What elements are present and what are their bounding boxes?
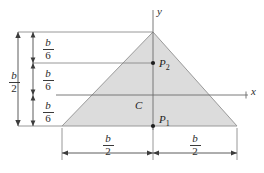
point-label-c-base: C — [135, 99, 142, 111]
dim-left-overall-label: b 2 — [4, 70, 24, 94]
point-marker-p1 — [151, 124, 155, 128]
dim-left-segment-3-numerator: b — [38, 100, 58, 111]
point-label-p1: P1 — [159, 113, 170, 128]
dim-left-segment-1-label: b 6 — [38, 37, 58, 61]
figure-canvas: y x b 2 b 6 b 6 b 6 b 2 b 2 P2 — [0, 0, 264, 173]
dim-bottom-left-numerator: b — [98, 133, 118, 144]
dim-bottom-left-arrow-end — [147, 151, 153, 156]
dim-bottom-left-denominator: 2 — [98, 146, 118, 157]
dim-bottom-left-label: b 2 — [98, 133, 118, 157]
dim-bottom-right-numerator: b — [185, 133, 205, 144]
dim-left-segment-2-label: b 6 — [38, 68, 58, 92]
dim-seg-arrow-a-down — [31, 32, 36, 38]
dim-left-overall-arrow-top — [15, 32, 20, 38]
point-label-p1-sub: 1 — [166, 119, 170, 128]
dim-seg-arrow-b-down — [31, 63, 36, 69]
point-label-p2-sub: 2 — [166, 63, 170, 72]
dim-seg-arrow-c-up — [31, 90, 36, 96]
point-label-p2: P2 — [159, 57, 170, 72]
point-label-p2-base: P — [159, 57, 166, 69]
dim-left-overall-denominator: 2 — [4, 83, 24, 94]
dim-left-segment-2-numerator: b — [38, 68, 58, 79]
point-label-c: C — [135, 99, 142, 114]
dim-left-segment-2-denominator: 6 — [38, 81, 58, 92]
dim-left-segment-1-denominator: 6 — [38, 50, 58, 61]
dim-seg-arrow-d-up — [31, 121, 36, 127]
point-marker-p2 — [151, 61, 155, 65]
point-label-p1-base: P — [159, 113, 166, 125]
dim-bottom-right-denominator: 2 — [185, 146, 205, 157]
dim-bottom-left-arrow-start — [62, 151, 68, 156]
dim-seg-arrow-c-down — [31, 95, 36, 101]
y-axis-label: y — [157, 5, 162, 17]
dim-seg-arrow-b-up — [31, 58, 36, 64]
dim-bottom-right-arrow-start — [153, 151, 159, 156]
x-axis-label: x — [251, 85, 256, 97]
dim-left-overall-numerator: b — [4, 70, 24, 81]
dim-left-segment-1-numerator: b — [38, 37, 58, 48]
dim-left-overall-arrow-bottom — [15, 120, 20, 126]
dim-left-segment-3-label: b 6 — [38, 100, 58, 124]
triangle-shape — [62, 32, 237, 126]
dim-left-segment-3-denominator: 6 — [38, 113, 58, 124]
dim-bottom-right-arrow-end — [231, 151, 237, 156]
dim-bottom-right-label: b 2 — [185, 133, 205, 157]
